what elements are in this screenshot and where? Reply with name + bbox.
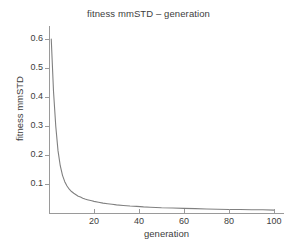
y-tick-mark bbox=[45, 184, 49, 185]
x-tick-mark bbox=[274, 209, 275, 213]
y-tick-mark bbox=[45, 155, 49, 156]
series-line-fitness-mmstd bbox=[51, 39, 274, 210]
x-axis-line bbox=[49, 213, 284, 214]
x-tick-mark bbox=[229, 209, 230, 213]
x-tick-label: 80 bbox=[214, 216, 244, 226]
x-tick-label: 60 bbox=[169, 216, 199, 226]
x-tick-label: 100 bbox=[259, 216, 289, 226]
y-tick-label: 0.1 bbox=[17, 178, 43, 188]
y-axis-label: fitness mmSTD bbox=[14, 54, 25, 164]
plot-area bbox=[49, 26, 283, 213]
y-tick-label: 0.6 bbox=[17, 33, 43, 43]
y-axis-line bbox=[49, 26, 50, 214]
y-tick-mark bbox=[45, 126, 49, 127]
x-tick-mark bbox=[94, 209, 95, 213]
chart-figure: fitness mmSTD – generation 20406080100 0… bbox=[0, 0, 297, 248]
chart-title: fitness mmSTD – generation bbox=[0, 8, 297, 19]
y-tick-mark bbox=[45, 97, 49, 98]
x-tick-label: 40 bbox=[124, 216, 154, 226]
x-axis-label: generation bbox=[49, 228, 284, 239]
x-tick-mark bbox=[139, 209, 140, 213]
x-tick-label: 20 bbox=[79, 216, 109, 226]
y-tick-mark bbox=[45, 68, 49, 69]
y-tick-mark bbox=[45, 39, 49, 40]
x-tick-mark bbox=[184, 209, 185, 213]
data-line-svg bbox=[49, 26, 283, 213]
